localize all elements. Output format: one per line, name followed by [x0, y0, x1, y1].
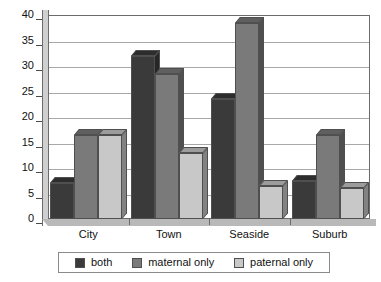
bar-front-face — [131, 56, 155, 219]
bar-top-face — [179, 147, 208, 153]
bar-front-face — [316, 135, 340, 219]
y-axis-tick-mark — [36, 45, 42, 46]
bar-side-face — [283, 180, 288, 219]
bar-top-face — [316, 129, 345, 135]
bar-top-face — [235, 17, 264, 23]
legend: bothmaternal onlypaternal only — [58, 252, 330, 273]
legend-swatch — [75, 258, 85, 268]
legend-item: both — [75, 257, 112, 268]
x-axis-category-label: City — [43, 228, 133, 240]
legend-item: maternal only — [132, 257, 214, 268]
bar — [74, 135, 98, 219]
y-axis-tick-mark — [36, 223, 42, 224]
x-axis-tick-mark — [129, 219, 130, 225]
y-axis-tick-label: 25 — [0, 86, 34, 97]
bar — [50, 183, 74, 219]
y-axis-tick-mark — [36, 198, 42, 199]
bar — [211, 99, 235, 219]
y-axis-tick-label: 0 — [0, 213, 34, 224]
bar-side-face — [122, 129, 127, 219]
bar-front-face — [74, 135, 98, 219]
x-axis-category-label: Town — [124, 228, 214, 240]
legend-label: both — [91, 257, 112, 268]
x-axis-tick-mark — [209, 219, 210, 225]
bar-side-face — [203, 147, 208, 219]
y-axis-tick-mark — [36, 96, 42, 97]
bar-front-face — [235, 23, 259, 219]
legend-label: paternal only — [250, 257, 313, 268]
bar — [292, 181, 316, 219]
bars-layer — [48, 15, 370, 219]
bar-top-face — [155, 68, 184, 74]
y-axis-tick-label: 10 — [0, 162, 34, 173]
bar-front-face — [259, 186, 283, 219]
y-axis-tick-mark — [36, 147, 42, 148]
bar — [235, 23, 259, 219]
bar — [98, 135, 122, 219]
bar-front-face — [211, 99, 235, 219]
y-axis-tick-mark — [36, 121, 42, 122]
bar-front-face — [50, 183, 74, 219]
bar-chart: 4035302520151050 CityTownSeasideSuburb b… — [0, 0, 381, 282]
bar — [259, 186, 283, 219]
bar-front-face — [340, 188, 364, 219]
y-axis-tick-mark — [36, 19, 42, 20]
legend-label: maternal only — [148, 257, 214, 268]
bar-top-face — [131, 50, 160, 56]
bar-front-face — [292, 181, 316, 219]
bar-front-face — [155, 74, 179, 219]
y-axis-tick-label: 40 — [0, 9, 34, 20]
y-axis-tick-label: 15 — [0, 137, 34, 148]
bar-front-face — [179, 153, 203, 219]
bar — [316, 135, 340, 219]
bar-front-face — [98, 135, 122, 219]
legend-item: paternal only — [234, 257, 313, 268]
bar-side-face — [364, 182, 369, 219]
y-axis-tick-label: 20 — [0, 111, 34, 122]
x-axis-category-label: Seaside — [204, 228, 294, 240]
bar — [155, 74, 179, 219]
legend-swatch — [132, 258, 142, 268]
bar — [179, 153, 203, 219]
legend-swatch — [234, 258, 244, 268]
x-axis-category-label: Suburb — [285, 228, 375, 240]
x-axis-tick-mark — [290, 219, 291, 225]
y-axis-tick-label: 35 — [0, 35, 34, 46]
y-axis-tick-label: 5 — [0, 188, 34, 199]
y-axis-tick-mark — [36, 172, 42, 173]
y-axis-line — [42, 10, 43, 226]
y-axis-tick-mark — [36, 70, 42, 71]
bar — [340, 188, 364, 219]
y-axis-tick-label: 30 — [0, 60, 34, 71]
bar — [131, 56, 155, 219]
